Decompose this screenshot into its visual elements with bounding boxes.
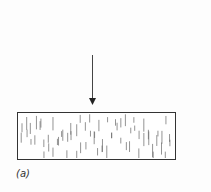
figure: (a) bbox=[0, 0, 211, 192]
force-arrow bbox=[89, 55, 96, 105]
diagram-svg bbox=[0, 0, 211, 192]
figure-label: (a) bbox=[16, 168, 30, 179]
material-block bbox=[18, 113, 176, 160]
